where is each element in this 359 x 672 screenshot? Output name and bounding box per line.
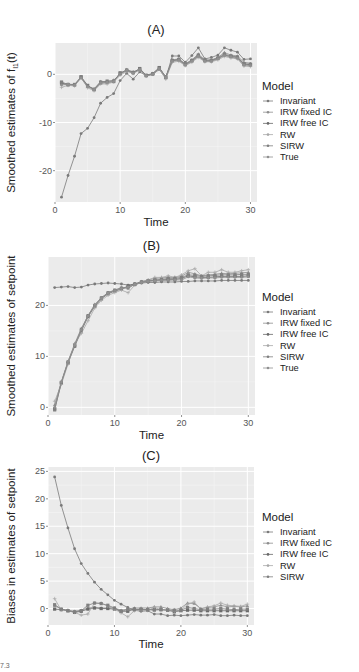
x-tick-label: 30 (245, 205, 255, 215)
y-tick-label: -10 (39, 118, 52, 128)
legend-item: RW (280, 130, 296, 140)
legend-title: Model (262, 80, 293, 92)
footnote-text: 7.3 (0, 662, 10, 669)
x-tick-label: 0 (52, 205, 57, 215)
plot-area (48, 467, 254, 625)
legend-item: IRW fixed IC (280, 107, 332, 117)
legend: ModelInvariantIRW fixed ICIRW free ICRWS… (262, 291, 332, 373)
x-axis-label: Time (139, 429, 164, 441)
legend-item: True (280, 363, 299, 373)
y-tick-label: 0 (40, 604, 45, 614)
y-axis-label: Smoothed estimates of fI1(t) (5, 52, 19, 193)
legend: ModelInvariantIRW fixed ICIRW free ICRWS… (262, 80, 332, 162)
x-axis-label: Time (143, 216, 168, 228)
x-tick-label: 30 (242, 628, 252, 638)
y-tick-label: 25 (35, 466, 45, 476)
legend-item: IRW free IC (280, 329, 329, 339)
legend-item: RW (280, 341, 296, 351)
y-tick-label: 15 (35, 521, 45, 531)
y-axis-label: Biases in estimates of setpoint (5, 468, 17, 624)
y-tick-label: -20 (39, 166, 52, 176)
x-axis-label: Time (138, 638, 163, 650)
y-tick-label: 5 (40, 576, 45, 586)
legend-title: Model (262, 291, 293, 303)
chart-panel-c: 01020300510152025(C)TimeBiases in estima… (5, 448, 332, 650)
figure: 01020300-10-20(A)TimeSmoothed estimates … (0, 0, 359, 672)
y-tick-label: 10 (35, 549, 45, 559)
legend-item: Invariant (280, 307, 316, 317)
y-tick-label: 10 (35, 351, 45, 361)
x-tick-label: 0 (45, 418, 50, 428)
legend-item: SIRW (280, 572, 304, 582)
legend-item: Invariant (280, 527, 316, 537)
x-tick-label: 10 (115, 205, 125, 215)
chart-title: (C) (142, 448, 160, 463)
legend: ModelInvariantIRW fixed ICIRW free ICRWS… (262, 511, 332, 582)
y-tick-label: 20 (35, 300, 45, 310)
chart-title: (B) (143, 238, 160, 253)
x-tick-label: 30 (243, 418, 253, 428)
legend-item: IRW free IC (280, 118, 329, 128)
legend-item: Invariant (280, 96, 316, 106)
legend-title: Model (262, 511, 293, 523)
y-tick-label: 0 (40, 402, 45, 412)
y-tick-label: 0 (47, 69, 52, 79)
x-tick-label: 0 (45, 628, 50, 638)
legend-item: True (280, 152, 299, 162)
legend-item: RW (280, 561, 296, 571)
x-tick-label: 10 (110, 418, 120, 428)
legend-item: SIRW (280, 141, 304, 151)
chart-title: (A) (147, 22, 164, 37)
legend-item: IRW free IC (280, 549, 329, 559)
chart-panel-a: 01020300-10-20(A)TimeSmoothed estimates … (5, 22, 332, 228)
legend-item: IRW fixed IC (280, 318, 332, 328)
x-tick-label: 20 (176, 628, 186, 638)
y-axis-label: Smoothed estimates of setpoint (5, 255, 17, 417)
chart-panel-b: 010203001020(B)TimeSmoothed estimates of… (5, 238, 332, 441)
x-tick-label: 20 (177, 418, 187, 428)
legend-item: IRW fixed IC (280, 538, 332, 548)
x-tick-label: 10 (109, 628, 119, 638)
y-tick-label: 20 (35, 494, 45, 504)
legend-item: SIRW (280, 352, 304, 362)
x-tick-label: 20 (180, 205, 190, 215)
